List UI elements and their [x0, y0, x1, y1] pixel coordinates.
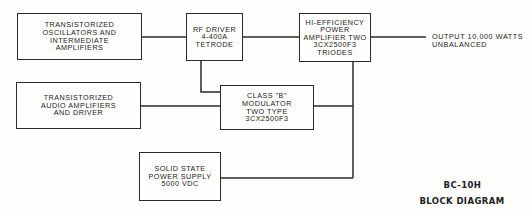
power-amplifier-label: HI-EFFICIENCY POWER AMPLIFIER TWO 3CX250…: [303, 19, 366, 57]
power-supply-block: SOLID STATE POWER SUPPLY 5000 VDC: [139, 152, 221, 201]
audio-label: TRANSISTORIZED AUDIO AMPLIFIERS AND DRIV…: [41, 94, 116, 117]
oscillators-block: TRANSISTORIZED OSCILLATORS AND INTERMEDI…: [17, 13, 142, 60]
power-supply-label: SOLID STATE POWER SUPPLY 5000 VDC: [149, 165, 212, 188]
oscillators-label: TRANSISTORIZED OSCILLATORS AND INTERMEDI…: [43, 21, 117, 51]
audio-block: TRANSISTORIZED AUDIO AMPLIFIERS AND DRIV…: [16, 82, 141, 129]
output-label: OUTPUT 10,000 WATTS UNBALANCED: [432, 33, 523, 48]
power-amplifier-block: HI-EFFICIENCY POWER AMPLIFIER TWO 3CX250…: [299, 13, 371, 62]
rf-driver-label: RF DRIVER 4-400A TETRODE: [193, 26, 236, 49]
diagram-title-caption: BLOCK DIAGRAM: [414, 196, 510, 206]
rf-driver-block: RF DRIVER 4-400A TETRODE: [186, 13, 243, 61]
modulator-block: CLASS "B" MODULATOR TWO TYPE 3CX2500F3: [220, 85, 314, 130]
diagram-title-model: BC-10H: [440, 180, 485, 190]
modulator-label: CLASS "B" MODULATOR TWO TYPE 3CX2500F3: [242, 92, 292, 122]
